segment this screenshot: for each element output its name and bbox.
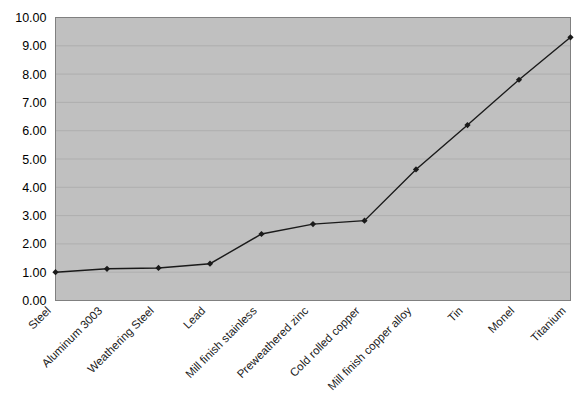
y-axis-tick-label: 1.00	[22, 266, 46, 280]
y-axis-tick-label: 8.00	[22, 68, 46, 82]
y-axis-tick-label: 10.00	[15, 11, 46, 25]
y-axis-tick-label: 4.00	[22, 181, 46, 195]
y-axis-tick-label: 9.00	[22, 39, 46, 53]
y-axis-tick-label: 7.00	[22, 96, 46, 110]
y-axis-tick-label: 5.00	[22, 153, 46, 167]
chart-canvas: 0.001.002.003.004.005.006.007.008.009.00…	[0, 0, 582, 416]
y-axis-tick-label: 6.00	[22, 124, 46, 138]
line-chart-figure: 0.001.002.003.004.005.006.007.008.009.00…	[0, 0, 582, 416]
y-axis-tick-label: 2.00	[22, 237, 46, 251]
y-axis-tick-label: 3.00	[22, 209, 46, 223]
